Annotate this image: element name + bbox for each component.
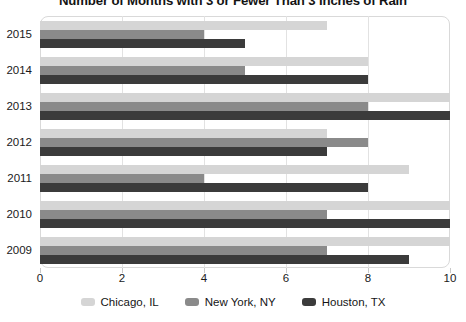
chart-legend: Chicago, ILNew York, NYHouston, TX	[0, 296, 466, 308]
bar	[40, 183, 368, 192]
legend-label: Chicago, IL	[101, 296, 159, 308]
bar	[40, 165, 409, 174]
legend-item[interactable]: Chicago, IL	[81, 296, 159, 308]
legend-swatch-icon	[81, 298, 95, 306]
x-axis-tick-label: 10	[444, 272, 457, 284]
bar	[40, 201, 450, 210]
legend-swatch-icon	[302, 298, 316, 306]
bar	[40, 255, 409, 264]
x-axis-tick-label: 6	[283, 272, 289, 284]
bar	[40, 93, 450, 102]
chart-title: Number of Months with 3 or Fewer Than 3 …	[0, 0, 466, 8]
legend-item[interactable]: Houston, TX	[302, 296, 386, 308]
bar	[40, 237, 450, 246]
bar	[40, 147, 327, 156]
bar	[40, 57, 368, 66]
bar	[40, 129, 327, 138]
bar	[40, 102, 368, 111]
bar	[40, 111, 450, 120]
bar	[40, 75, 368, 84]
bar	[40, 246, 327, 255]
x-axis-tick-label: 8	[365, 272, 371, 284]
y-axis-label-2014: 2014	[6, 64, 32, 76]
bar	[40, 21, 327, 30]
y-axis-label-2009: 2009	[6, 244, 32, 256]
y-axis-label-2015: 2015	[6, 28, 32, 40]
x-axis-tick-label: 0	[37, 272, 43, 284]
bar	[40, 39, 245, 48]
bar	[40, 138, 368, 147]
legend-label: New York, NY	[205, 296, 276, 308]
y-axis-label-2013: 2013	[6, 100, 32, 112]
bar	[40, 30, 204, 39]
bar	[40, 210, 327, 219]
y-axis-year-labels: 2015201420132012201120102009	[0, 16, 36, 268]
x-axis-tick-label: 4	[201, 272, 207, 284]
legend-label: Houston, TX	[322, 296, 386, 308]
x-axis-tick-labels: 0246810	[40, 272, 450, 288]
bar	[40, 219, 450, 228]
y-axis-label-2010: 2010	[6, 208, 32, 220]
bar-chart: Number of Months with 3 or Fewer Than 3 …	[0, 0, 466, 322]
bar	[40, 174, 204, 183]
bars-layer	[40, 16, 450, 268]
legend-item[interactable]: New York, NY	[185, 296, 276, 308]
y-axis-label-2012: 2012	[6, 136, 32, 148]
y-axis-label-2011: 2011	[7, 172, 32, 184]
legend-swatch-icon	[185, 298, 199, 306]
bar	[40, 66, 245, 75]
x-axis-tick-label: 2	[119, 272, 125, 284]
